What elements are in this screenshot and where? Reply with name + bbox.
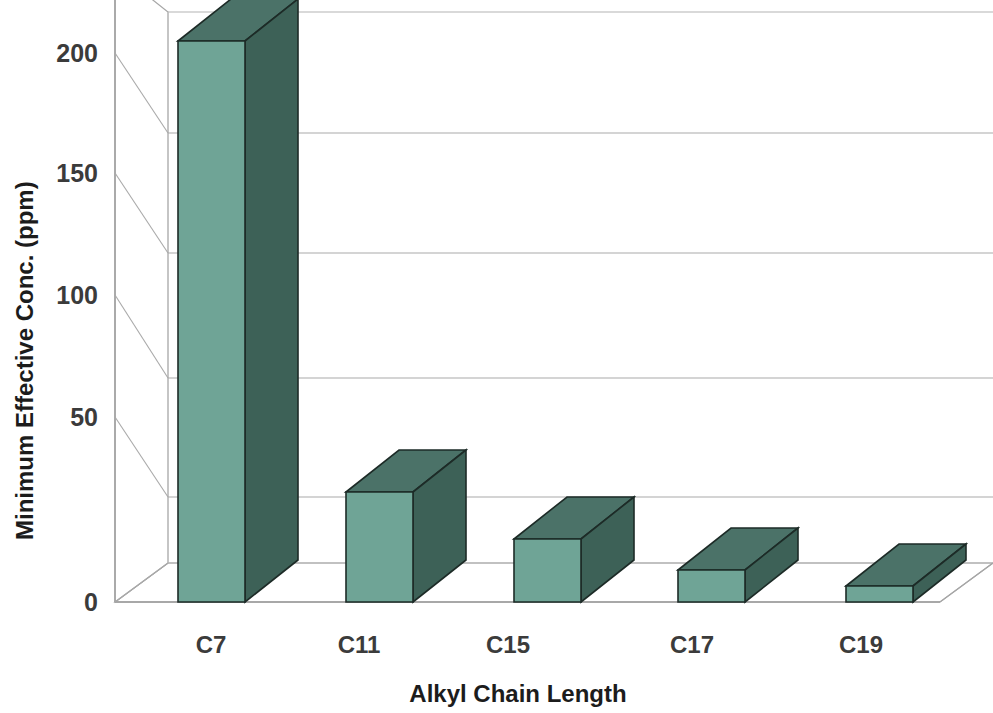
bar-c19-front-face bbox=[846, 586, 913, 602]
x-tick-label-c17: C17 bbox=[670, 631, 714, 658]
bar-chart-figure: 200 150 100 50 0 Minimum Effective Conc.… bbox=[0, 0, 993, 713]
x-tick-label-c11: C11 bbox=[338, 631, 381, 658]
y-axis-title-group: Minimum Effective Conc. (ppm) bbox=[11, 181, 38, 540]
bar-c7-front-face bbox=[178, 41, 245, 602]
y-axis-tick-labels: 200 150 100 50 0 bbox=[56, 39, 98, 616]
left-wall bbox=[115, 0, 168, 602]
y-tick-label-150: 150 bbox=[56, 159, 98, 187]
y-tick-label-0: 0 bbox=[84, 588, 98, 616]
y-tick-label-50: 50 bbox=[70, 403, 98, 431]
bar-c7-side-face bbox=[245, 0, 298, 602]
y-tick-label-200: 200 bbox=[56, 39, 98, 67]
x-tick-label-c15: C15 bbox=[486, 631, 530, 658]
bar-c11-front-face bbox=[346, 492, 413, 602]
x-tick-label-c7: C7 bbox=[196, 631, 227, 658]
x-axis-tick-labels: C7 C11 C15 C17 C19 bbox=[196, 631, 883, 658]
x-tick-label-c19: C19 bbox=[839, 631, 883, 658]
bar-c7[interactable] bbox=[178, 0, 298, 602]
chart-canvas: 200 150 100 50 0 Minimum Effective Conc.… bbox=[0, 0, 993, 713]
x-axis-title: Alkyl Chain Length bbox=[409, 680, 626, 707]
bar-c15-front-face bbox=[514, 539, 581, 602]
y-tick-label-100: 100 bbox=[56, 281, 98, 309]
bar-c17-front-face bbox=[678, 570, 745, 602]
y-axis-title: Minimum Effective Conc. (ppm) bbox=[11, 181, 38, 540]
